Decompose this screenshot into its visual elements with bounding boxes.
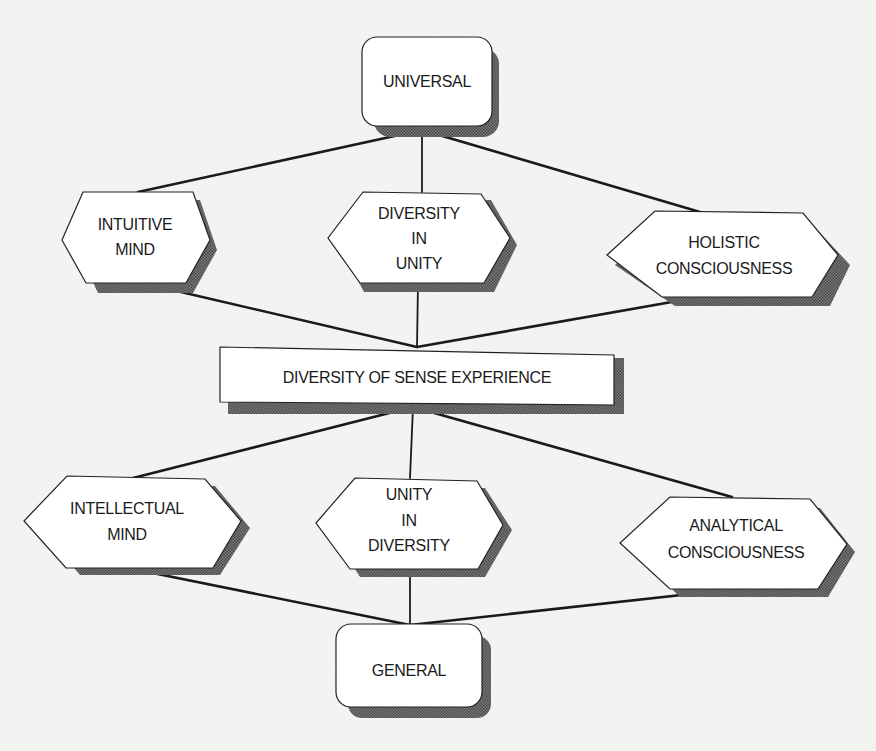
node-diversity-of-sense-experience: DIVERSITY OF SENSE EXPERIENCE — [220, 347, 624, 414]
edge-diversity-in-unity-sense — [417, 283, 418, 347]
node-label-line-3: DIVERSITY — [368, 537, 450, 554]
node-label-line-1: DIVERSITY — [378, 205, 460, 222]
node-label-line-1: UNITY — [386, 486, 433, 503]
node-label: UNIVERSAL — [383, 73, 471, 90]
scanned-page: UNIVERSAL INTUITIVE MIND DIVERSITY IN UN… — [0, 0, 876, 751]
node-label-line-1: HOLISTIC — [688, 234, 759, 251]
node-label-line-3: UNITY — [396, 255, 443, 272]
node-label-line-2: MIND — [115, 241, 155, 258]
node-label-line-2: CONSCIOUSNESS — [656, 260, 793, 277]
node-diversity-in-unity: DIVERSITY IN UNITY — [328, 192, 517, 292]
node-general: GENERAL — [336, 624, 491, 718]
node-label-line-1: ANALYTICAL — [689, 517, 783, 534]
node-label-line-1: INTUITIVE — [98, 216, 173, 233]
node-label-line-2: IN — [411, 230, 426, 247]
node-label-line-2: CONSCIOUSNESS — [668, 544, 805, 561]
node-label-line-2: IN — [401, 512, 416, 529]
node-label-line-2: MIND — [107, 526, 147, 543]
node-hexagon — [62, 192, 210, 283]
hierarchy-diagram: UNIVERSAL INTUITIVE MIND DIVERSITY IN UN… — [0, 0, 876, 751]
node-label: DIVERSITY OF SENSE EXPERIENCE — [283, 369, 551, 386]
node-hexagon — [24, 476, 241, 568]
node-unity-in-diversity: UNITY IN DIVERSITY — [316, 478, 512, 577]
node-label-line-1: INTELLECTUAL — [70, 500, 184, 517]
node-intuitive-mind: INTUITIVE MIND — [62, 192, 217, 293]
node-label: GENERAL — [372, 662, 447, 679]
node-universal: UNIVERSAL — [362, 37, 499, 137]
